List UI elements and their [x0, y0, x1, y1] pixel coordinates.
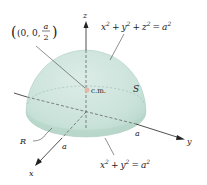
sphere-eq-leader — [110, 34, 124, 60]
svg-text:2: 2 — [43, 33, 48, 42]
center-of-mass-dot — [85, 88, 90, 93]
x-axis — [39, 138, 62, 162]
point-label: ( (0, 0, a 2 ) — [11, 22, 57, 42]
svg-text:(0, 0,: (0, 0, — [17, 28, 41, 38]
y-axis-back — [14, 93, 27, 97]
radius-label-y: a — [135, 129, 140, 138]
axis-label-x: x — [29, 169, 34, 178]
cm-label: c.m. — [91, 87, 106, 95]
surface-label-s: S — [133, 84, 139, 94]
svg-text:x2+y2+z2=a2: x2+y2+z2=a2 — [101, 20, 171, 32]
y-axis-arrow — [176, 135, 185, 140]
region-label-r: R — [19, 137, 26, 146]
y-axis — [136, 124, 180, 138]
sphere-equation-label: x2+y2+z2=a2 — [101, 20, 171, 32]
z-axis-arrow — [84, 21, 89, 28]
svg-text:x2+y2=a2: x2+y2=a2 — [100, 158, 150, 170]
svg-text:): ) — [52, 24, 57, 40]
radius-label-x: a — [62, 142, 67, 151]
svg-text:(: ( — [11, 24, 16, 40]
disk-eq-leader — [105, 138, 114, 155]
disk-equation-label: x2+y2=a2 — [100, 158, 150, 170]
axis-label-y: y — [186, 137, 192, 146]
x-axis-arrow — [35, 158, 42, 166]
axis-label-z: z — [82, 11, 88, 20]
svg-text:a: a — [44, 22, 49, 31]
hemisphere-diagram: ( (0, 0, a 2 ) x2+y2+z2=a2 x2+y2=a2 c.m.… — [0, 0, 207, 185]
